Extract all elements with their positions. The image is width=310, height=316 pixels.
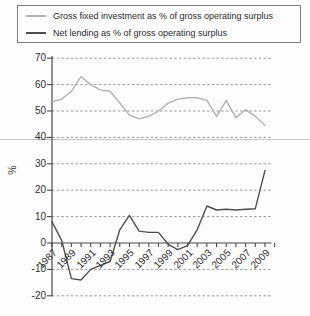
- legend-item-gross-fixed-investment: Gross fixed investment as % of gross ope…: [26, 9, 300, 23]
- legend-label: Net lending as % of gross operating surp…: [53, 28, 227, 38]
- legend-line-swatch-gray: [26, 15, 46, 17]
- y-tick-label-70: 70: [10, 52, 46, 64]
- y-tick-label-0: 0: [10, 237, 46, 249]
- legend-line-swatch-dark: [26, 32, 46, 34]
- chart-legend: Gross fixed investment as % of gross ope…: [17, 5, 301, 43]
- y-tick-label-50: 50: [10, 105, 46, 117]
- y-tick-label-10: 10: [10, 211, 46, 223]
- y-tick-label--20: -20: [10, 290, 46, 302]
- legend-item-net-lending: Net lending as % of gross operating surp…: [26, 26, 300, 40]
- y-tick-label-60: 60: [10, 79, 46, 91]
- legend-label: Gross fixed investment as % of gross ope…: [53, 11, 273, 21]
- y-tick-label-20: 20: [10, 184, 46, 196]
- chart-figure: % 706050403020100-10-20 1987198919911993…: [0, 0, 310, 316]
- y-tick-label-30: 30: [10, 158, 46, 170]
- series-line-gross-fixed-investment: [52, 77, 265, 126]
- y-tick-label-40: 40: [10, 131, 46, 143]
